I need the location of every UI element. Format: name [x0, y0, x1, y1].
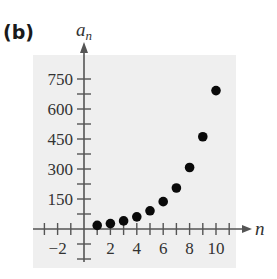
x-axis-arrow-icon	[242, 225, 252, 233]
data-point	[145, 206, 155, 216]
y-axis-arrow-icon	[80, 42, 88, 53]
y-tick-label: 450	[48, 130, 74, 149]
x-axis-title: n	[255, 218, 265, 239]
data-point	[158, 197, 168, 207]
y-tick-label: 300	[48, 160, 74, 179]
y-tick-label: 600	[48, 100, 74, 119]
y-tick-label: 750	[48, 70, 74, 89]
y-axis-title: an	[76, 19, 92, 43]
data-point	[172, 183, 182, 193]
data-point	[119, 216, 129, 226]
scatter-chart: −2246810150300450600750 an n	[0, 0, 277, 279]
x-tick-label: 8	[185, 239, 194, 258]
y-tick-label: 150	[48, 190, 74, 209]
x-tick-label: 4	[133, 239, 142, 258]
x-tick-label: 10	[208, 239, 225, 258]
data-point	[92, 221, 102, 231]
data-point	[106, 219, 116, 229]
data-point	[185, 163, 195, 173]
x-tick-label: −2	[49, 239, 67, 258]
data-point	[198, 132, 208, 142]
data-point	[211, 86, 221, 96]
data-point	[132, 212, 142, 222]
x-tick-label: 2	[106, 239, 115, 258]
x-tick-label: 6	[159, 239, 168, 258]
